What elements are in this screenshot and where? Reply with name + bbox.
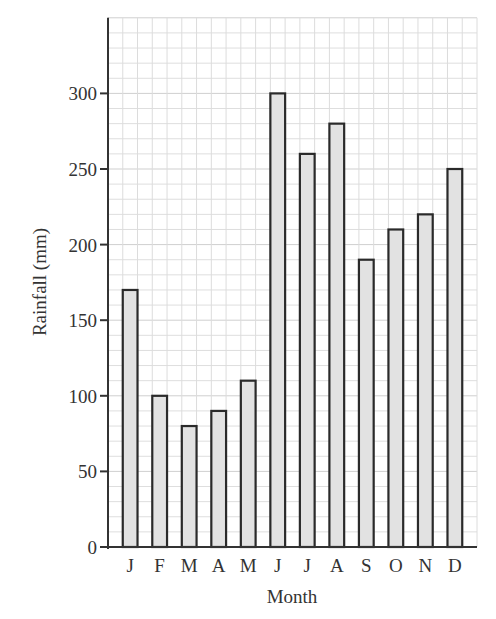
- x-tick-label: A: [330, 555, 344, 576]
- x-tick-label: J: [304, 555, 311, 576]
- bar-d: [447, 169, 462, 547]
- bar-o: [388, 229, 403, 547]
- bar-m: [241, 381, 256, 547]
- x-tick-label: M: [240, 555, 257, 576]
- bar-j: [300, 154, 315, 547]
- x-tick-label: A: [212, 555, 226, 576]
- x-axis-title: Month: [267, 586, 318, 607]
- y-tick-label: 50: [78, 461, 97, 482]
- x-tick-label: S: [361, 555, 372, 576]
- x-tick-label: O: [389, 555, 403, 576]
- x-tick-label: D: [448, 555, 462, 576]
- y-tick-label: 250: [69, 159, 98, 180]
- x-tick-label: F: [154, 555, 165, 576]
- x-tick-label: J: [126, 555, 133, 576]
- x-tick-label: N: [418, 555, 432, 576]
- x-tick-label: M: [181, 555, 198, 576]
- bar-s: [359, 260, 374, 547]
- bar-j: [123, 290, 138, 547]
- bar-a: [211, 411, 226, 547]
- y-axis-ticks: 050100150200250300: [69, 83, 109, 558]
- bar-n: [418, 214, 433, 547]
- y-tick-label: 150: [69, 310, 98, 331]
- y-tick-label: 100: [69, 386, 98, 407]
- y-tick-label: 300: [69, 83, 98, 104]
- rainfall-bar-chart: 050100150200250300 JFMAMJJASOND Rainfall…: [0, 0, 496, 619]
- y-tick-label: 200: [69, 235, 98, 256]
- bar-j: [270, 93, 285, 547]
- y-axis-title: Rainfall (mm): [29, 228, 51, 336]
- y-tick-label: 0: [88, 537, 98, 558]
- x-tick-label: J: [274, 555, 281, 576]
- bar-m: [182, 426, 197, 547]
- bar-a: [329, 124, 344, 547]
- bar-f: [152, 396, 167, 547]
- x-axis-ticks: JFMAMJJASOND: [126, 555, 461, 576]
